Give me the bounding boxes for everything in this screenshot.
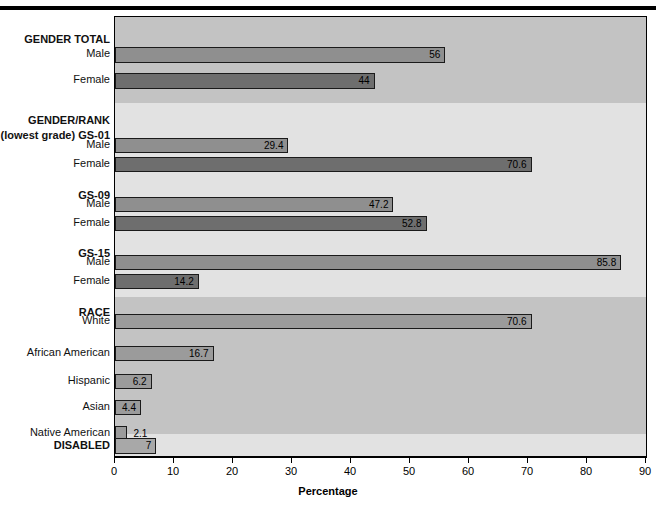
x-axis-tick-label: 40 bbox=[330, 466, 370, 477]
x-axis-tick-label: 90 bbox=[625, 466, 656, 477]
group-heading: GENDER TOTAL bbox=[0, 34, 116, 45]
row-label: Asian bbox=[0, 401, 116, 412]
bar-value-label: 70.6 bbox=[507, 317, 530, 327]
x-axis-tick-label: 0 bbox=[94, 466, 134, 477]
row-label: Female bbox=[0, 74, 116, 85]
chart-figure: 564429.470.647.252.885.814.270.616.76.24… bbox=[0, 0, 656, 506]
x-axis-tick-label: 30 bbox=[271, 466, 311, 477]
group-heading: DISABLED bbox=[0, 440, 116, 451]
bar-male: 29.4 bbox=[115, 138, 288, 153]
bar-disabled: 7 bbox=[115, 438, 156, 454]
group-heading: GENDER/RANK bbox=[0, 115, 116, 126]
row-label: Male bbox=[0, 198, 116, 209]
x-axis-tick bbox=[586, 457, 587, 463]
x-axis-tick bbox=[291, 457, 292, 463]
x-axis-tick bbox=[527, 457, 528, 463]
x-axis-tick bbox=[645, 457, 646, 463]
bar-female: 70.6 bbox=[115, 157, 532, 172]
x-axis-tick-label: 20 bbox=[212, 466, 252, 477]
bar-value-label: 70.6 bbox=[507, 160, 530, 170]
row-label: Native American bbox=[0, 427, 116, 438]
x-axis-title: Percentage bbox=[0, 486, 656, 497]
bar-value-label: 29.4 bbox=[264, 141, 287, 151]
bar-african-american: 16.7 bbox=[115, 346, 214, 361]
bar-hispanic: 6.2 bbox=[115, 374, 152, 389]
x-axis-tick bbox=[232, 457, 233, 463]
bar-value-label: 52.8 bbox=[402, 219, 425, 229]
bar-male: 85.8 bbox=[115, 255, 621, 270]
bar-value-label: 16.7 bbox=[189, 349, 212, 359]
x-axis-tick-label: 50 bbox=[389, 466, 429, 477]
row-label: Male bbox=[0, 256, 116, 267]
x-axis-tick-label: 80 bbox=[566, 466, 606, 477]
bar-value-label: 14.2 bbox=[174, 277, 197, 287]
row-label: Male bbox=[0, 139, 116, 150]
row-label: White bbox=[0, 315, 116, 326]
bar-female: 52.8 bbox=[115, 216, 427, 231]
plot-area: 564429.470.647.252.885.814.270.616.76.24… bbox=[114, 16, 647, 458]
group-band bbox=[115, 434, 646, 457]
bar-value-label: 4.4 bbox=[122, 403, 140, 413]
row-label: Female bbox=[0, 217, 116, 228]
x-axis-tick bbox=[350, 457, 351, 463]
row-label: Female bbox=[0, 158, 116, 169]
bar-male: 56 bbox=[115, 47, 445, 63]
x-axis-tick bbox=[114, 457, 115, 463]
row-label: Hispanic bbox=[0, 375, 116, 386]
bar-value-label: 85.8 bbox=[597, 258, 620, 268]
bar-value-label: 44 bbox=[358, 76, 373, 86]
row-label: African American bbox=[0, 347, 116, 358]
bar-value-label: 56 bbox=[429, 50, 444, 60]
row-label: Female bbox=[0, 275, 116, 286]
x-axis-tick-label: 10 bbox=[153, 466, 193, 477]
bar-white: 70.6 bbox=[115, 314, 532, 329]
x-axis-tick bbox=[468, 457, 469, 463]
x-axis-line bbox=[114, 456, 646, 457]
x-axis-tick-label: 60 bbox=[448, 466, 488, 477]
bar-female: 14.2 bbox=[115, 274, 199, 289]
bar-value-label: 7 bbox=[146, 441, 156, 451]
x-axis-tick bbox=[173, 457, 174, 463]
bar-male: 47.2 bbox=[115, 197, 393, 212]
bar-value-label: 6.2 bbox=[133, 377, 151, 387]
x-axis-tick-label: 70 bbox=[507, 466, 547, 477]
x-axis-tick bbox=[409, 457, 410, 463]
bar-asian: 4.4 bbox=[115, 400, 141, 415]
bar-value-label: 47.2 bbox=[369, 200, 392, 210]
top-rule bbox=[0, 6, 656, 10]
row-label: Male bbox=[0, 48, 116, 59]
bar-female: 44 bbox=[115, 73, 375, 89]
